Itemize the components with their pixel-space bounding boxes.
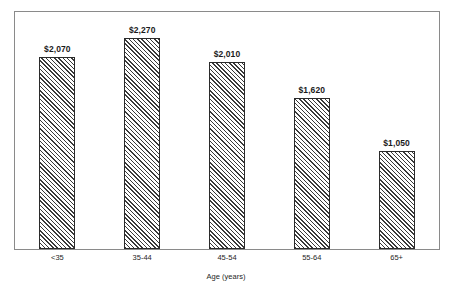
bar-group: $2,270 [100, 11, 185, 249]
x-tick-label: <35 [15, 253, 100, 262]
bar-value-label: $2,270 [129, 25, 156, 35]
bar[interactable] [209, 62, 245, 249]
x-axis-title: Age (years) [0, 272, 452, 281]
bar-group: $1,620 [269, 11, 354, 249]
bar-group: $2,010 [185, 11, 270, 249]
plot-area: $2,070$2,270$2,010$1,620$1,050 [15, 11, 439, 249]
bar[interactable] [294, 98, 330, 249]
bar[interactable] [124, 38, 160, 249]
bar-group: $1,050 [354, 11, 439, 249]
x-tick-label: 45-54 [185, 253, 270, 262]
bar[interactable] [39, 57, 75, 249]
bar[interactable] [379, 151, 415, 249]
clipped-chart-title [0, 0, 452, 9]
x-tick-label: 55-64 [269, 253, 354, 262]
bar-chart-figure: $2,070$2,270$2,010$1,620$1,050 <3535-444… [0, 0, 452, 291]
bar-group: $2,070 [15, 11, 100, 249]
x-tick-label: 35-44 [100, 253, 185, 262]
x-tick-label: 65+ [354, 253, 439, 262]
bar-value-label: $1,050 [383, 138, 410, 148]
bar-value-label: $2,070 [44, 44, 71, 54]
bar-value-label: $1,620 [298, 85, 325, 95]
bar-value-label: $2,010 [214, 49, 241, 59]
